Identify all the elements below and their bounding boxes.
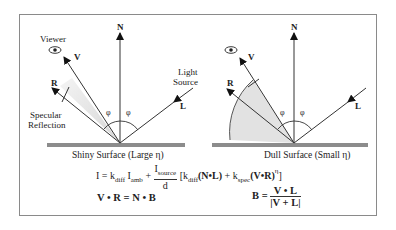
phong-reflection-diagram: Viewer V N R Light Source L Specular Ref… xyxy=(0,0,396,230)
shiny-surface xyxy=(47,143,185,147)
light-source-label-1: Light xyxy=(178,67,198,77)
light-source-label-2: Source xyxy=(173,77,198,87)
phi-right-right: φ xyxy=(300,108,305,117)
dull-caption: Dull Surface (Small η) xyxy=(264,150,351,161)
dull-surface xyxy=(212,143,368,147)
v-label-right: V xyxy=(248,52,255,62)
v-label: V xyxy=(74,52,81,62)
source-fraction: Isourced xyxy=(154,163,178,191)
halfway-vector-definition: B = V • L|V + L| xyxy=(252,185,301,208)
n-label: N xyxy=(117,22,124,32)
n-label-right: N xyxy=(291,22,298,32)
specular-label-2: Reflection xyxy=(28,120,66,130)
halfway-identity: V • R = N • B xyxy=(97,192,156,203)
specular-label-1: Specular xyxy=(30,110,62,120)
phi-right: φ xyxy=(126,108,131,117)
l-label: L xyxy=(180,101,186,111)
shiny-caption: Shiny Surface (Large η) xyxy=(72,150,164,161)
phi-left-right: φ xyxy=(280,108,285,117)
r-label-right: R xyxy=(227,78,234,88)
viewer-label: Viewer xyxy=(40,34,66,44)
phi-left: φ xyxy=(106,108,111,117)
halfway-fraction: V • L|V + L| xyxy=(270,185,300,208)
r-label: R xyxy=(51,78,58,88)
l-label-right: L xyxy=(355,101,361,111)
